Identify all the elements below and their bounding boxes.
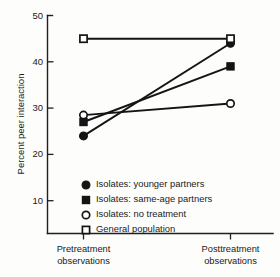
series-line-no-treatment [84,104,231,116]
legend-label-younger-partners: Isolates: younger partners [96,178,205,189]
legend-marker-filled-square-icon [82,196,89,203]
datapoint-no-treatment-pre [80,111,87,118]
y-tick-label-10: 10 [32,195,43,206]
legend-marker-filled-circle-icon [82,181,90,189]
datapoint-general-population-pre [80,35,87,42]
y-tick-label-50: 50 [32,10,43,21]
y-tick-label-20: 20 [32,148,43,159]
series-line-younger-partners [84,43,231,136]
x-tick-label-pretreatment-line2: observations [57,256,110,266]
datapoint-same-age-pre [80,118,87,125]
legend-label-no-treatment: Isolates: no treatment [96,208,187,219]
x-tick-label-posttreatment-line1: Posttreatment [202,244,260,254]
x-tick-label-pretreatment-line1: Pretreatment [57,244,111,254]
x-tick-label-posttreatment-line2: observations [204,256,257,266]
legend-marker-open-square-icon [82,226,89,233]
datapoint-same-age-post [227,63,234,70]
datapoint-younger-pre [80,132,88,140]
legend-label-general-population: General population [96,223,175,234]
datapoint-general-population-post [227,35,234,42]
chart-legend: Isolates: younger partners Isolates: sam… [82,178,212,234]
legend-marker-open-circle-icon [82,211,89,218]
line-chart-svg: 50 40 30 20 10 Percent peer interaction … [0,0,280,277]
chart-figure: 50 40 30 20 10 Percent peer interaction … [0,0,280,277]
y-axis-title: Percent peer interaction [15,74,26,175]
y-tick-label-30: 30 [32,102,43,113]
datapoint-no-treatment-post [227,100,234,107]
legend-label-same-age-partners: Isolates: same-age partners [96,193,213,204]
y-tick-label-40: 40 [32,56,43,67]
